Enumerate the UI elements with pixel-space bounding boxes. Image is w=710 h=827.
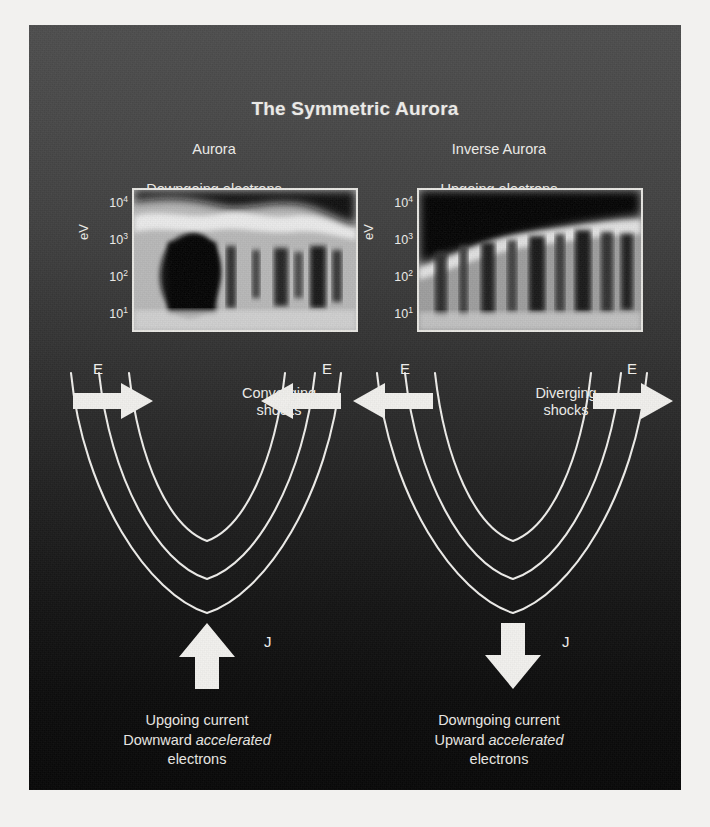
spectrogram-upgoing-electrons: eV 104 103 102 101 (359, 188, 649, 330)
caption-left-line2-emphasis: accelerated (196, 732, 271, 748)
electric-field-arrow-left-panel-left (73, 383, 153, 419)
caption-right-line2-emphasis: accelerated (489, 732, 564, 748)
caption-right-panel: Downgoing current Upward accelerated ele… (349, 711, 649, 770)
y-tick-10e3: 103 (394, 232, 413, 247)
field-label-e-right-panel-left: E (400, 360, 410, 377)
current-arrow-downgoing (485, 623, 541, 689)
caption-right-line3: electrons (470, 751, 529, 767)
page-background: The Symmetric Aurora Aurora Downgoing el… (0, 0, 710, 827)
caption-left-line3: electrons (168, 751, 227, 767)
electric-field-arrow-right-panel-left (353, 383, 433, 419)
y-tick-10e4: 104 (109, 195, 128, 210)
field-label-e-right-panel-right: E (627, 360, 637, 377)
shock-label-converging-line1: Converging (242, 385, 316, 401)
current-label-j-right: J (562, 633, 570, 650)
shock-label-diverging-line2: shocks (543, 402, 588, 418)
y-axis-ticks: 104 103 102 101 (375, 188, 415, 330)
y-axis-label-ev: eV (76, 224, 91, 240)
caption-left-line1: Upgoing current (145, 712, 248, 728)
shock-label-diverging-line1: Diverging (535, 385, 596, 401)
current-label-j-left: J (264, 633, 272, 650)
shock-label-diverging: Diverging shocks (491, 385, 641, 420)
current-arrow-upgoing (179, 623, 235, 689)
panel-title-aurora: Aurora (79, 141, 349, 157)
figure-plate: The Symmetric Aurora Aurora Downgoing el… (29, 25, 681, 790)
y-tick-10e2: 102 (109, 269, 128, 284)
spectrogram-downgoing-electrons: eV 104 103 102 101 (74, 188, 364, 330)
panel-title-inverse-aurora: Inverse Aurora (364, 141, 634, 157)
y-tick-10e4: 104 (394, 195, 413, 210)
field-label-e-left-panel-right: E (322, 360, 332, 377)
caption-right-line2-pre: Upward (435, 732, 489, 748)
y-tick-10e1: 101 (394, 306, 413, 321)
shock-label-converging-line2: shocks (256, 402, 301, 418)
caption-left-panel: Upgoing current Downward accelerated ele… (47, 711, 347, 770)
spectrogram-image-right (417, 188, 643, 332)
y-tick-10e1: 101 (109, 306, 128, 321)
spectrogram-image-left (132, 188, 358, 332)
y-axis-ticks: 104 103 102 101 (90, 188, 130, 330)
caption-right-line1: Downgoing current (438, 712, 560, 728)
shock-structure-diagram: Converging shocks Diverging shocks (29, 345, 681, 715)
y-tick-10e2: 102 (394, 269, 413, 284)
field-label-e-left-panel-left: E (93, 360, 103, 377)
caption-left-line2-pre: Downward (123, 732, 196, 748)
y-tick-10e3: 103 (109, 232, 128, 247)
y-axis-label-ev: eV (361, 224, 376, 240)
shock-label-converging: Converging shocks (204, 385, 354, 420)
figure-title: The Symmetric Aurora (29, 98, 681, 120)
